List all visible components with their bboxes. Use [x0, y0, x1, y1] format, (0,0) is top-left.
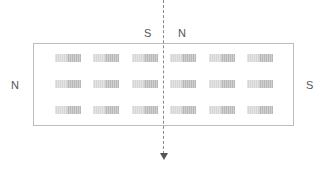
magnet-domain: [93, 106, 119, 114]
dashed-split-line: [163, 0, 164, 154]
label-right-pole: S: [306, 80, 313, 91]
arrow-down-icon: [160, 153, 168, 160]
magnet-domain: [132, 54, 158, 62]
magnet-domain: [55, 54, 81, 62]
magnet-domain: [55, 80, 81, 88]
label-top-right-pole: N: [178, 28, 186, 39]
magnet-domain: [247, 106, 273, 114]
magnet-domain: [247, 80, 273, 88]
magnet-domain: [209, 54, 235, 62]
magnet-domain: [132, 106, 158, 114]
magnet-domain: [170, 106, 196, 114]
magnet-domain: [170, 80, 196, 88]
magnet-domain: [209, 80, 235, 88]
magnet-domain: [132, 80, 158, 88]
label-top-left-pole: S: [144, 28, 151, 39]
magnet-domain: [93, 80, 119, 88]
magnet-domain: [247, 54, 273, 62]
magnet-domain: [93, 54, 119, 62]
magnet-domain: [55, 106, 81, 114]
label-left-pole: N: [11, 80, 19, 91]
magnet-domain: [170, 54, 196, 62]
magnet-domain: [209, 106, 235, 114]
